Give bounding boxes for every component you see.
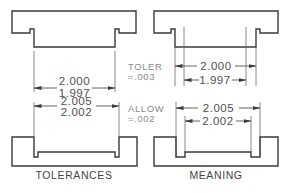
upper-part-tab-outline: [154, 11, 278, 47]
tab-max-dimension: 2.000: [200, 60, 231, 72]
meaning-caption: MEANING: [189, 169, 242, 181]
right-panel: 2.000 1.997 2.005 2.002 MEANING: [154, 11, 278, 181]
lower-part-slot-outline: [12, 137, 137, 166]
center-notes: TOLER =.003 ALLOW =.002: [128, 61, 164, 124]
tab-dimension-upper: 2.000: [59, 75, 90, 87]
tolerances-caption: TOLERANCES: [36, 169, 113, 181]
slot-dimension-lower: 2.002: [61, 106, 92, 118]
slot-max-dimension: 2.005: [203, 102, 234, 114]
left-panel: 2.000 1.997 2.005 2.002 TOLERANCES: [12, 11, 137, 181]
tab-min-dimension: 1.997: [199, 74, 230, 86]
slot-min-dimension: 2.002: [202, 115, 233, 127]
upper-part-tab-outline: [12, 11, 136, 47]
toler-value: =.003: [128, 71, 155, 82]
tolerance-drawing: 2.000 1.997 2.005 2.002 TOLERANCES TOLER…: [0, 0, 290, 193]
allow-value: =.002: [128, 113, 155, 124]
lower-part-slot-outline: [154, 137, 278, 166]
